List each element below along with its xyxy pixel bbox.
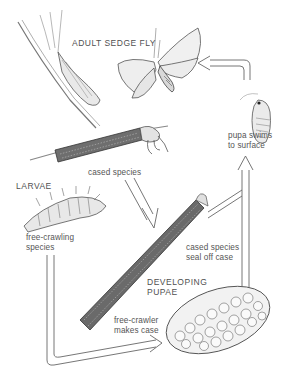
cased-species-label: cased species xyxy=(88,168,141,178)
resting-adult-illustration xyxy=(18,10,100,128)
free-crawler-makes-case-label: free-crawler makes case xyxy=(114,316,159,336)
pupa-swims-label: pupa swims to surface xyxy=(228,131,272,151)
cased-species-seal-label: cased species seal off case xyxy=(186,243,239,263)
cased-larva-illustration xyxy=(30,126,168,162)
life-cycle-diagram: ADULT SEDGE FLY pupa swims to surface ca… xyxy=(0,0,295,386)
arrow-case-to-surface xyxy=(208,156,253,290)
adult-sedge-fly-label: ADULT SEDGE FLY xyxy=(72,38,156,48)
arrow-pupa-to-adult xyxy=(198,56,250,80)
arrow-cased-to-pupae xyxy=(125,178,158,228)
developing-pupae-label: DEVELOPING PUPAE xyxy=(147,277,207,297)
free-crawling-larva-illustration xyxy=(24,186,106,232)
free-crawling-species-label: free-crawling species xyxy=(26,233,74,253)
larvae-label: LARVAE xyxy=(16,181,52,191)
